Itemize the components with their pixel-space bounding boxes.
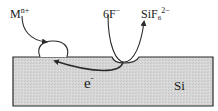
electron-base: e bbox=[84, 75, 91, 91]
fluoride-to-product-arrow bbox=[108, 15, 144, 62]
product-label: SiF62− bbox=[141, 8, 170, 20]
substrate-text: Si bbox=[174, 78, 185, 93]
metal-ion-base: M bbox=[10, 7, 21, 21]
product-charge: 2− bbox=[161, 6, 170, 15]
fluoride-base: 6F bbox=[103, 7, 116, 21]
substrate-label: Si bbox=[174, 79, 185, 92]
product-subscript: 6 bbox=[158, 14, 162, 22]
electron-label: e- bbox=[84, 76, 93, 91]
product-base: SiF bbox=[141, 7, 158, 21]
metal-ion-label: Mn+ bbox=[10, 8, 29, 20]
electron-charge: - bbox=[91, 74, 94, 83]
fluoride-label: 6F− bbox=[103, 8, 120, 20]
metal-ion-charge: n+ bbox=[21, 6, 30, 15]
fluoride-charge: − bbox=[116, 6, 121, 15]
metal-particle bbox=[39, 41, 68, 57]
